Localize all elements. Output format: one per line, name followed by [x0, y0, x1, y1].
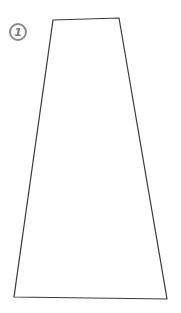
trapezoid-shape — [14, 18, 167, 299]
label-badge: 1 — [10, 24, 26, 40]
diagram-canvas: 1 — [0, 0, 181, 313]
figure-number-label: 1 — [14, 26, 22, 39]
